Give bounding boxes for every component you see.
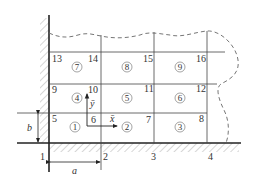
svg-text:7: 7 (75, 62, 80, 72)
svg-text:1: 1 (73, 122, 78, 132)
svg-text:8: 8 (125, 62, 130, 72)
element-9: 9 (175, 62, 185, 72)
fem-mesh-diagram: 1 2 3 4 5 6 7 8 9 10 11 12 13 14 15 16 1… (0, 0, 254, 179)
svg-text:6: 6 (178, 93, 183, 103)
node-7: 7 (146, 114, 151, 125)
svg-text:5: 5 (125, 93, 130, 103)
element-3: 3 (175, 122, 185, 132)
node-11: 11 (144, 83, 154, 94)
dimension-a: a (50, 162, 100, 176)
node-10: 10 (88, 84, 98, 95)
element-5: 5 (122, 93, 132, 103)
element-4: 4 (72, 93, 82, 103)
node-16: 16 (196, 53, 206, 64)
node-13: 13 (52, 53, 62, 64)
node-1: 1 (40, 151, 45, 162)
element-1: 1 (70, 122, 80, 132)
element-8: 8 (122, 62, 132, 72)
dimension-a-label: a (72, 165, 77, 176)
local-y-label: ȳ (89, 98, 95, 109)
node-9: 9 (52, 84, 57, 95)
dimension-b-label: b (27, 122, 32, 133)
node-8: 8 (199, 113, 204, 124)
element-6: 6 (175, 93, 185, 103)
node-15: 15 (143, 53, 153, 64)
element-7: 7 (72, 62, 82, 72)
node-6: 6 (91, 114, 96, 125)
node-4: 4 (208, 151, 213, 162)
dimension-b: b (27, 114, 38, 142)
local-x-label: x̄ (109, 113, 115, 124)
wall-hatching (40, 18, 49, 143)
node-2: 2 (103, 151, 108, 162)
node-5: 5 (52, 113, 57, 124)
node-12: 12 (196, 83, 206, 94)
svg-text:2: 2 (125, 122, 130, 132)
svg-text:4: 4 (75, 93, 80, 103)
node-14: 14 (88, 53, 98, 64)
node-3: 3 (151, 151, 156, 162)
svg-text:3: 3 (178, 122, 183, 132)
svg-text:9: 9 (178, 62, 183, 72)
element-2: 2 (122, 122, 132, 132)
